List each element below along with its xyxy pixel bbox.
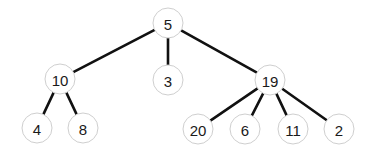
tree-node-5: 5 <box>153 8 183 38</box>
tree-edge-19-6 <box>252 93 263 115</box>
tree-edge-10-8 <box>66 93 76 115</box>
tree-node-2: 2 <box>324 114 354 144</box>
tree-nodes: 51031948206112 <box>22 8 354 144</box>
node-label: 5 <box>164 16 172 33</box>
tree-node-10: 10 <box>45 64 75 94</box>
node-label: 4 <box>33 121 41 138</box>
tree-node-4: 4 <box>22 113 52 143</box>
tree-node-20: 20 <box>183 114 213 144</box>
tree-diagram: 51031948206112 <box>0 0 370 153</box>
tree-edge-10-4 <box>43 93 53 115</box>
tree-node-8: 8 <box>68 113 98 143</box>
node-label: 2 <box>335 122 343 139</box>
node-label: 19 <box>262 73 279 90</box>
node-label: 3 <box>164 73 172 90</box>
node-label: 20 <box>190 122 207 139</box>
node-label: 6 <box>241 122 249 139</box>
tree-node-19: 19 <box>255 65 285 95</box>
tree-edge-5-10 <box>73 30 154 72</box>
node-label: 11 <box>285 122 301 139</box>
tree-edge-5-19 <box>181 30 257 72</box>
node-label: 10 <box>52 72 69 89</box>
tree-edge-19-11 <box>276 94 286 116</box>
tree-node-6: 6 <box>230 114 260 144</box>
node-label: 8 <box>79 121 87 138</box>
tree-node-11: 11 <box>278 114 308 144</box>
tree-node-3: 3 <box>153 65 183 95</box>
